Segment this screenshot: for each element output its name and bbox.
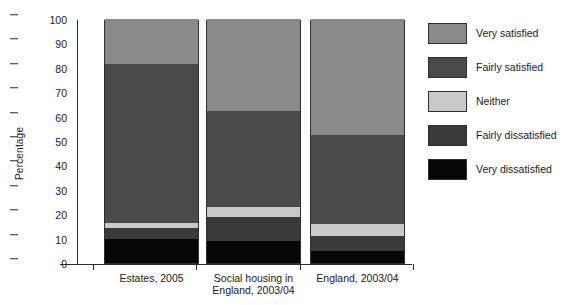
x-axis-category-label: England, 2003/04 [288, 272, 428, 284]
y-axis-tick-label: 100 [18, 15, 78, 26]
bar-segment[interactable] [105, 64, 198, 223]
x-axis-line [60, 264, 412, 265]
y-axis-tick-mark [10, 209, 18, 210]
legend-color-swatch [428, 57, 467, 78]
y-axis-tick-label: 70 [18, 88, 78, 99]
legend-item[interactable]: Very dissatisfied [428, 152, 564, 186]
legend-item-label: Neither [476, 95, 510, 107]
y-axis-tick-label: 60 [18, 112, 78, 123]
y-axis-tick-label: 10 [18, 234, 78, 245]
chart-legend: Very satisfiedFairly satisfiedNeitherFai… [428, 16, 564, 186]
y-axis-tick-mark [10, 136, 18, 137]
y-axis-tick-label: 50 [18, 137, 78, 148]
y-axis-tick-mark [10, 185, 18, 186]
bar-outline [104, 20, 199, 264]
bar-segment[interactable] [311, 135, 404, 224]
legend-item-label: Fairly satisfied [476, 61, 543, 73]
bar-outline [310, 20, 405, 264]
legend-color-swatch [428, 91, 467, 112]
y-axis-tick-mark [10, 234, 18, 235]
x-axis-tick-mark [196, 264, 197, 270]
bar-segment[interactable] [207, 217, 300, 241]
legend-item[interactable]: Fairly satisfied [428, 50, 564, 84]
bar-segment[interactable] [311, 224, 404, 236]
legend-item[interactable]: Neither [428, 84, 564, 118]
bar-segment[interactable] [105, 19, 198, 64]
bar-segment[interactable] [207, 207, 300, 217]
bar-stack[interactable] [310, 20, 405, 264]
bar-segment[interactable] [311, 19, 404, 135]
x-axis-tick-mark [413, 264, 414, 270]
y-axis-tick-mark [10, 258, 18, 259]
y-axis-tick-label: 90 [18, 39, 78, 50]
legend-item[interactable]: Fairly dissatisfied [428, 118, 564, 152]
bar-segment[interactable] [105, 239, 198, 263]
y-axis-tick-mark [10, 112, 18, 113]
legend-color-swatch [428, 23, 467, 44]
bar-stack[interactable] [206, 20, 301, 264]
bar-segment[interactable] [311, 236, 404, 251]
bar-segment[interactable] [207, 111, 300, 207]
y-axis-tick-label: 30 [18, 186, 78, 197]
y-axis-tick-mark [10, 87, 18, 88]
plot-area: 0102030405060708090100 [78, 20, 410, 264]
y-axis-tick-mark [10, 161, 18, 162]
legend-color-swatch [428, 159, 467, 180]
y-axis-tick-mark [10, 63, 18, 64]
legend-color-swatch [428, 125, 467, 146]
legend-item-label: Very dissatisfied [476, 163, 552, 175]
y-axis-tick-label: 80 [18, 64, 78, 75]
legend-item[interactable]: Very satisfied [428, 16, 564, 50]
stacked-bar-chart: Percentage 0102030405060708090100 Estate… [0, 0, 420, 305]
bar-segment[interactable] [311, 251, 404, 263]
y-axis-tick-mark [10, 14, 18, 15]
bar-segment[interactable] [207, 241, 300, 263]
bar-segment[interactable] [105, 223, 198, 228]
y-axis-tick-label: 0 [18, 259, 78, 270]
y-axis-tick-label: 40 [18, 161, 78, 172]
bar-segment[interactable] [105, 228, 198, 239]
legend-item-label: Very satisfied [476, 27, 538, 39]
bar-outline [206, 20, 301, 264]
y-axis-tick-label: 20 [18, 210, 78, 221]
legend-item-label: Fairly dissatisfied [476, 129, 557, 141]
bar-stack[interactable] [104, 20, 199, 264]
y-axis-tick-mark [10, 39, 18, 40]
x-axis-tick-mark [93, 264, 94, 270]
bar-segment[interactable] [207, 19, 300, 111]
x-axis-tick-mark [300, 264, 301, 270]
